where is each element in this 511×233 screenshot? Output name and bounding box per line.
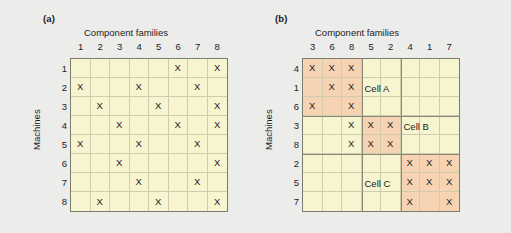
panel-b-cell-r4-c1 — [420, 59, 440, 78]
panel-b-row-header-5: 5 — [287, 173, 299, 192]
panel-a-row-header-4: 4 — [55, 116, 67, 135]
panel-a-cell-r3-c5: X — [149, 97, 169, 116]
panel-a-cell-r5-c8 — [208, 135, 228, 154]
panel-a-cell-r5-c4: X — [130, 135, 150, 154]
panel-a-col-header-8: 8 — [208, 41, 228, 52]
panel-b-row-header-6: 6 — [287, 97, 299, 116]
panel-a-cell-r1-c2 — [91, 59, 111, 78]
panel-a-cell-r5-c7: X — [188, 135, 208, 154]
block-divider-horizontal — [303, 154, 459, 155]
matrix-mark: X — [136, 139, 142, 149]
matrix-mark: X — [77, 82, 83, 92]
panel-b-cell-r6-c8: X — [342, 97, 362, 116]
panel-a-cell-r4-c2 — [91, 116, 111, 135]
panel-b-cell-r7-c2 — [381, 192, 401, 211]
matrix-mark: X — [136, 177, 142, 187]
matrix-mark: X — [214, 158, 220, 168]
panel-b-cell-r4-c8: X — [342, 59, 362, 78]
panel-b-cell-r7-c8 — [342, 192, 362, 211]
matrix-mark: X — [348, 63, 354, 73]
panel-b-cell-r3-c6 — [323, 116, 343, 135]
panel-a-cell-r3-c7 — [188, 97, 208, 116]
panel-a-cell-r4-c6: X — [169, 116, 189, 135]
panel-b-cell-r7-c3 — [303, 192, 323, 211]
matrix-mark: X — [116, 158, 122, 168]
panel-b-cell-r5-c3 — [303, 173, 323, 192]
panel-a-cell-r5-c6 — [169, 135, 189, 154]
panel-b-cell-r6-c2 — [381, 97, 401, 116]
panel-a-cell-r8-c1 — [71, 192, 91, 211]
panel-a-cell-r6-c8: X — [208, 154, 228, 173]
matrix-mark: X — [387, 120, 393, 130]
panel-b-cell-r5-c8 — [342, 173, 362, 192]
panel-a-cell-r1-c8: X — [208, 59, 228, 78]
panel-b-cell-r6-c7 — [440, 97, 460, 116]
panel-b-cell-r7-c6 — [323, 192, 343, 211]
panel-a-cell-r7-c3 — [110, 173, 130, 192]
panel-b-row-header-2: 2 — [287, 154, 299, 173]
panel-b-row-header-4: 4 — [287, 59, 299, 78]
panel-a-cell-r8-c6 — [169, 192, 189, 211]
panel-b-col-header-2: 2 — [381, 41, 401, 52]
panel-b-cell-r7-c1 — [420, 192, 440, 211]
panel-b-cell-r8-c7 — [440, 135, 460, 154]
panel-a-cell-r7-c7: X — [188, 173, 208, 192]
matrix-mark: X — [155, 197, 161, 207]
panel-a-x-axis-title: Component families — [84, 27, 168, 38]
panel-b-cell-r8-c3 — [303, 135, 323, 154]
panel-b-col-header-8: 8 — [342, 41, 362, 52]
matrix-mark: X — [348, 120, 354, 130]
panel-a-cell-r3-c6 — [169, 97, 189, 116]
panel-a-row-header-2: 2 — [55, 78, 67, 97]
panel-a-cell-r4-c4 — [130, 116, 150, 135]
panel-a-cell-r4-c7 — [188, 116, 208, 135]
panel-a-cell-r2-c8 — [208, 78, 228, 97]
matrix-mark: X — [194, 82, 200, 92]
panel-b-row-headers: 41638257 — [287, 59, 299, 211]
panel-a-y-axis-title: Machines — [31, 109, 42, 150]
panel-b-cell-r6-c5 — [362, 97, 382, 116]
panel-b-cell-r2-c1: X — [420, 154, 440, 173]
panel-a-cell-r7-c8 — [208, 173, 228, 192]
panel-b-row-header-3: 3 — [287, 116, 299, 135]
panel-a-cell-r1-c7 — [188, 59, 208, 78]
panel-a-col-header-1: 1 — [71, 41, 91, 52]
panel-a-cell-r8-c8: X — [208, 192, 228, 211]
panel-a-cell-r2-c2 — [91, 78, 111, 97]
panel-b-cell-r1-c7 — [440, 78, 460, 97]
panel-b-row-header-1: 1 — [287, 78, 299, 97]
panel-a-row-header-3: 3 — [55, 97, 67, 116]
panel-b-cell-r1-c4 — [401, 78, 421, 97]
panel-b-cell-r5-c6 — [323, 173, 343, 192]
panel-a-cell-r2-c3 — [110, 78, 130, 97]
panel-b-cell-r4-c2 — [381, 59, 401, 78]
panel-a: (a) Component families Machines 12345678… — [0, 0, 256, 233]
panel-b-col-header-5: 5 — [362, 41, 382, 52]
panel-b-cell-r8-c5: X — [362, 135, 382, 154]
panel-b-cell-r2-c6 — [323, 154, 343, 173]
panel-b-cell-r2-c8 — [342, 154, 362, 173]
panel-a-column-headers: 12345678 — [71, 41, 227, 52]
matrix-mark: X — [309, 101, 315, 111]
matrix-mark: X — [426, 177, 432, 187]
panel-b-cell-r4-c7 — [440, 59, 460, 78]
panel-a-row-header-7: 7 — [55, 173, 67, 192]
panel-a-cell-r6-c7 — [188, 154, 208, 173]
panel-b-cell-r4-c4 — [401, 59, 421, 78]
panel-b-cell-r4-c5 — [362, 59, 382, 78]
panel-b-row-header-8: 8 — [287, 135, 299, 154]
panel-b-row-header-7: 7 — [287, 192, 299, 211]
panel-a-label: (a) — [43, 13, 55, 24]
panel-a-cell-r7-c4: X — [130, 173, 150, 192]
panel-a-col-header-5: 5 — [149, 41, 169, 52]
matrix-mark: X — [407, 197, 413, 207]
matrix-mark: X — [407, 158, 413, 168]
figure-container: (a) Component families Machines 12345678… — [0, 0, 511, 233]
panel-b-cell-r8-c1 — [420, 135, 440, 154]
panel-a-col-header-4: 4 — [130, 41, 150, 52]
panel-a-cell-r5-c3 — [110, 135, 130, 154]
panel-a-row-header-5: 5 — [55, 135, 67, 154]
panel-a-cell-r2-c6 — [169, 78, 189, 97]
panel-a-row-header-1: 1 — [55, 59, 67, 78]
cell-group-label-cell-c: Cell C — [365, 178, 391, 189]
